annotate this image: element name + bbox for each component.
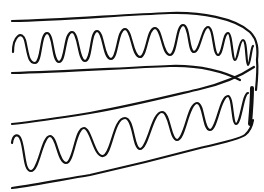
fold-outer-edge — [256, 60, 257, 90]
lower-band — [12, 67, 254, 188]
upper-band-bottom-edge — [12, 66, 240, 80]
looped-band-drawing — [0, 0, 264, 192]
upper-band — [12, 13, 257, 80]
band-illustration — [0, 0, 264, 192]
upper-band-wave — [13, 25, 253, 65]
fold-thick-edge — [250, 88, 252, 124]
